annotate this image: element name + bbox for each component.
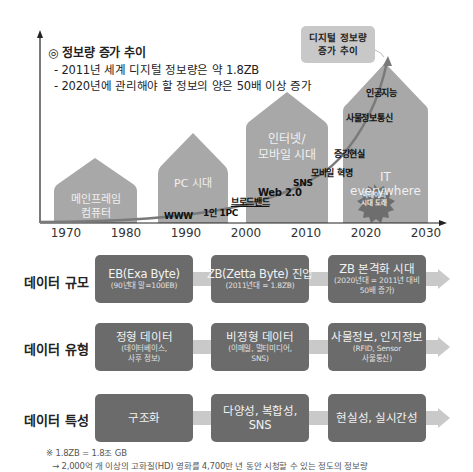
era-label-line: 메인프레임	[54, 193, 137, 207]
box-main-text: 구조화	[128, 411, 160, 425]
row-box: 비정형 데이터 (이메일, 멀티미디어, SNS)	[211, 323, 309, 371]
year-tick: 1980	[106, 226, 146, 240]
box-main-text: 비정형 데이터	[226, 330, 294, 344]
row-box: 정형 데이터 (데이터베이스, 사후 정보)	[95, 323, 193, 371]
milestone-iot: 사물정보통신	[346, 111, 392, 124]
milestone-www: WWW	[164, 211, 193, 221]
row-box: 구조화	[95, 394, 193, 442]
milestone-sns: SNS	[293, 178, 313, 188]
box-sub-text: 사후 정보)	[128, 354, 160, 364]
growth-curve-arrow-icon	[383, 56, 392, 66]
box-main-text: ZB 본격화 시대	[339, 262, 414, 276]
year-tick: 2010	[286, 226, 326, 240]
year-tick: 2020	[346, 226, 386, 240]
callout-pointer	[375, 50, 384, 57]
box-main-text: ZB(Zetta Byte) 진입	[207, 267, 313, 281]
era-label-pc: PC 시대	[158, 177, 228, 191]
row-box: ZB 본격화 시대 (2020년대 = 2011년 대비 50배 증가)	[328, 255, 426, 303]
era-label-line: IT	[343, 170, 428, 184]
era-label-line: 인터넷/	[246, 131, 328, 147]
row-box: 다양성, 복합성, SNS	[211, 394, 309, 442]
row-box: 사물정보, 인지정보 (RFID, Sensor 사물통신)	[328, 323, 426, 371]
box-sub-text: (이메일, 멀티미디어,	[228, 344, 292, 354]
box-sub-text: SNS)	[251, 354, 268, 364]
footnote-line-2: → 2,000억 개 이상의 고화질(HD) 영화를 4,700만 년 동안 시…	[52, 459, 367, 471]
milestone-ai: 인공지능	[366, 86, 397, 99]
box-sub-text: (90년대 말=100EB)	[111, 281, 177, 291]
box-main-text: 다양성, 복합성,	[223, 404, 297, 418]
box-sub-text: 사물통신)	[362, 354, 392, 364]
box-main-text: SNS	[249, 418, 271, 432]
era-label-line: 컴퓨터	[54, 207, 137, 221]
chart-bullet-2: - 2020년에 관리해야 할 정보의 양은 50배 이상 증가	[54, 77, 312, 93]
box-sub-text: 50배 증가)	[360, 286, 394, 296]
year-tick: 1990	[166, 226, 206, 240]
box-main-text: 정형 데이터	[116, 330, 173, 344]
row-arrow-tip-icon	[438, 337, 450, 357]
burst-line: 빅데이터	[353, 191, 395, 199]
box-main-text: 사물정보, 인지정보	[331, 330, 423, 344]
milestone-mobile-revolution: 모바일 혁명	[311, 166, 352, 179]
y-axis-arrow-icon	[37, 30, 43, 38]
chart-title: ◎ 정보량 증가 추이	[48, 43, 146, 60]
row-label: 데이터 규모	[24, 272, 89, 291]
box-sub-text: (데이터베이스,	[121, 344, 167, 354]
box-sub-text: (RFID, Sensor	[353, 344, 401, 354]
row-arrow-tip-icon	[438, 269, 450, 289]
footnote-line-1: ※ 1.8ZB = 1.8조 GB	[46, 446, 127, 458]
burst-label-bigdata: 빅데이터 시대 도래	[353, 191, 395, 207]
era-label-line: PC 시대	[158, 177, 228, 191]
burst-line: 시대 도래	[353, 199, 395, 207]
row-box: ZB(Zetta Byte) 진입 (2011년대 = 1.8ZB)	[211, 255, 309, 303]
row-box: 현실성, 실시간성	[328, 394, 426, 442]
callout-line-1: 디지털 정보량	[301, 31, 375, 44]
era-label-mainframe: 메인프레임 컴퓨터	[54, 193, 137, 221]
era-label-internet-mobile: 인터넷/ 모바일 시대	[246, 131, 328, 163]
milestone-web20: Web 2.0	[258, 187, 302, 198]
row-arrow-tip-icon	[438, 408, 450, 428]
chart-bullet-1: - 2011년 세계 디지털 정보량은 약 1.8ZB	[54, 61, 259, 77]
box-sub-text: (2020년대 = 2011년 대비	[334, 276, 420, 286]
year-tick: 2030	[406, 226, 446, 240]
row-box: EB(Exa Byte) (90년대 말=100EB)	[95, 255, 193, 303]
era-label-line: 모바일 시대	[246, 147, 328, 163]
box-main-text: 현실성, 실시간성	[336, 411, 418, 425]
row-label: 데이터 유형	[24, 339, 89, 358]
row-label: 데이터 특성	[24, 410, 89, 429]
box-main-text: EB(Exa Byte)	[108, 267, 180, 281]
year-tick: 2000	[226, 226, 266, 240]
milestone-ar: 증강현실	[334, 147, 365, 160]
box-sub-text: (2011년대 = 1.8ZB)	[225, 281, 294, 291]
callout-digital-info-growth: 디지털 정보량 증가 추이	[301, 26, 375, 63]
callout-line-2: 증가 추이	[301, 44, 375, 57]
year-tick: 1970	[46, 226, 86, 240]
